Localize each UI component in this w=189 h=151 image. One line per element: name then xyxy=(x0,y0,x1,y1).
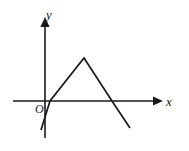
x-axis-label: x xyxy=(165,94,172,109)
origin-label: O xyxy=(35,102,44,116)
y-axis-label: y xyxy=(44,7,52,22)
x-axis-arrow-icon xyxy=(153,96,163,105)
tent-graph-curve xyxy=(41,58,130,130)
coordinate-axes-figure: y x O xyxy=(0,0,189,151)
figure-canvas: y x O xyxy=(0,0,189,151)
